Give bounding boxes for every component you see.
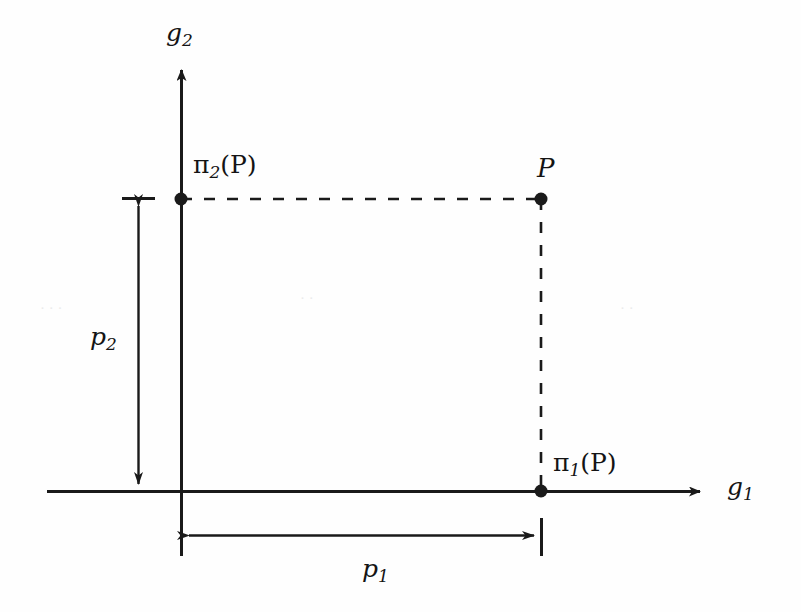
point-pi2-P [175, 193, 188, 206]
y-axis-label: g2 [166, 20, 193, 49]
x-axis-label: g1 [727, 474, 754, 503]
point-label-pi2-P: π2(P) [193, 152, 257, 181]
diagram-svg [0, 0, 801, 612]
point-label-pi1-P: π1(P) [553, 450, 617, 479]
dimension-p2 [122, 199, 155, 485]
point-pi1-P [535, 485, 548, 498]
point-label-P: P [537, 155, 555, 181]
dimension-label-p2: p2 [90, 324, 117, 353]
figure-canvas: · · · · · · · [0, 0, 801, 612]
point-P [535, 193, 548, 206]
dimension-label-p1: p1 [362, 556, 389, 585]
dimension-p1 [182, 513, 542, 556]
